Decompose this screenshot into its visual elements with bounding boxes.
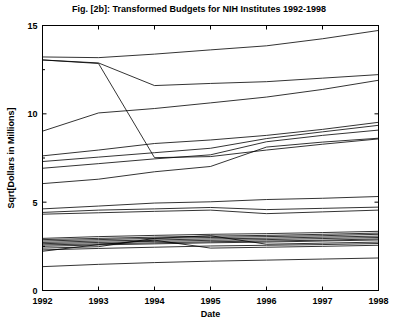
- data-line-nci: [43, 30, 379, 57]
- line-chart-plot: 0510151992199319941995199619971998DateSq…: [0, 0, 398, 330]
- x-tick-label: 1994: [144, 296, 164, 306]
- x-tick-label: 1998: [368, 296, 388, 306]
- axes-group: [43, 26, 379, 291]
- data-line-nhlbi: [43, 60, 379, 86]
- x-tick-label: 1995: [200, 296, 220, 306]
- data-line-niddk: [43, 122, 379, 156]
- axis-labels-group: 0510151992199319941995199619971998DateSq…: [6, 21, 389, 319]
- x-tick-label: 1996: [256, 296, 276, 306]
- data-line-nimh-transfer: [43, 60, 379, 158]
- x-axis-title: Date: [201, 309, 221, 319]
- data-line-niehs: [43, 197, 379, 209]
- y-tick-label: 0: [32, 286, 37, 296]
- y-tick-label: 15: [27, 21, 37, 31]
- y-axis-title: Sqrt[Dollars in Millions]: [6, 107, 16, 208]
- data-line-nichd: [43, 138, 379, 183]
- data-line-niaid: [43, 80, 379, 131]
- x-tick-label: 1997: [312, 296, 332, 306]
- plot-frame: [43, 26, 379, 291]
- figure-container: Fig. [2b]: Transformed Budgets for NIH I…: [0, 0, 398, 330]
- data-line-ninds: [43, 130, 379, 168]
- data-line-nibib: [43, 258, 379, 267]
- data-series-group: [43, 30, 379, 266]
- x-tick-label: 1993: [88, 296, 108, 306]
- x-tick-label: 1992: [32, 296, 52, 306]
- y-tick-label: 5: [32, 198, 37, 208]
- y-tick-label: 10: [27, 109, 37, 119]
